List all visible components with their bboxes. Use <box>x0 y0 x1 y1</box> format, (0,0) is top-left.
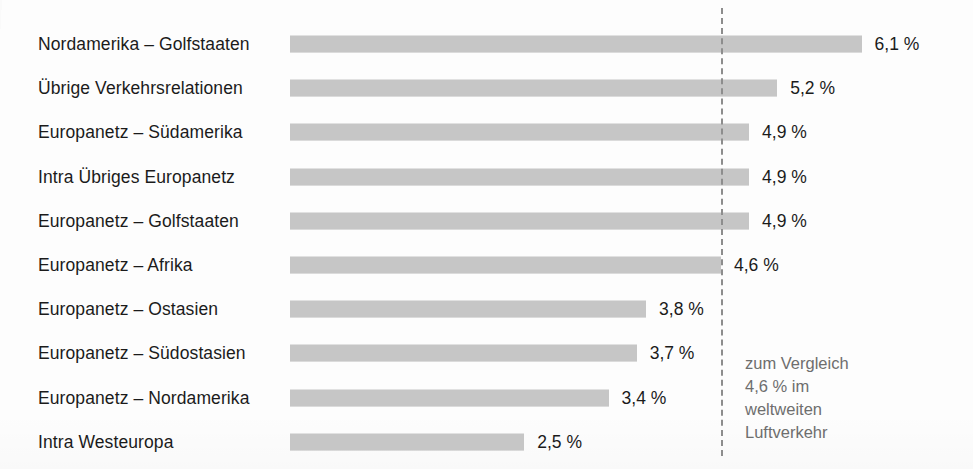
bar-value-label: 3,7 % <box>650 343 695 364</box>
category-label: Intra Übriges Europanetz <box>38 166 235 187</box>
bar-value-label: 4,6 % <box>734 255 779 276</box>
category-label: Übrige Verkehrsrelationen <box>38 78 243 99</box>
bar-value-label: 3,8 % <box>659 299 704 320</box>
bar <box>290 345 637 362</box>
bar <box>290 80 777 97</box>
bar-value-label: 4,9 % <box>762 166 807 187</box>
reference-line-note: zum Vergleich 4,6 % im weltweiten Luftve… <box>745 352 925 444</box>
category-label: Europanetz – Südostasien <box>38 343 246 364</box>
bar-value-label: 2,5 % <box>537 431 582 452</box>
category-label: Europanetz – Nordamerika <box>38 387 250 408</box>
chart-row: Europanetz – Afrika4,6 % <box>0 243 973 287</box>
bar <box>290 124 749 141</box>
bar-value-label: 6,1 % <box>875 34 920 55</box>
reference-line <box>721 8 723 456</box>
reference-note-line-2: 4,6 % im <box>745 375 925 398</box>
chart-row: Europanetz – Golfstaaten4,9 % <box>0 199 973 243</box>
category-label: Europanetz – Ostasien <box>38 299 218 320</box>
category-label: Intra Westeuropa <box>38 431 174 452</box>
bar <box>290 212 749 229</box>
reference-note-line-4: Luftverkehr <box>745 421 925 444</box>
chart-row: Intra Übriges Europanetz4,9 % <box>0 155 973 199</box>
bar-chart: Nordamerika – Golfstaaten6,1 %Übrige Ver… <box>0 0 973 469</box>
bar-value-label: 4,9 % <box>762 122 807 143</box>
category-label: Europanetz – Golfstaaten <box>38 210 239 231</box>
chart-row: Übrige Verkehrsrelationen5,2 % <box>0 66 973 110</box>
bar <box>290 389 609 406</box>
chart-row: Nordamerika – Golfstaaten6,1 % <box>0 22 973 66</box>
bar-value-label: 4,9 % <box>762 210 807 231</box>
bar <box>290 257 721 274</box>
chart-row: Europanetz – Ostasien3,8 % <box>0 287 973 331</box>
reference-note-line-1: zum Vergleich <box>745 352 925 375</box>
category-label: Europanetz – Afrika <box>38 255 193 276</box>
reference-note-line-3: weltweiten <box>745 398 925 421</box>
bar <box>290 301 646 318</box>
chart-row: Europanetz – Südamerika4,9 % <box>0 110 973 154</box>
bar <box>290 36 862 53</box>
category-label: Nordamerika – Golfstaaten <box>38 34 250 55</box>
bar <box>290 433 524 450</box>
bar <box>290 168 749 185</box>
bar-value-label: 5,2 % <box>790 78 835 99</box>
category-label: Europanetz – Südamerika <box>38 122 243 143</box>
bar-value-label: 3,4 % <box>622 387 667 408</box>
